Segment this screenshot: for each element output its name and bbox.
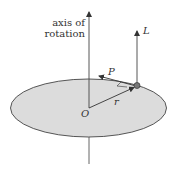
label-P: P xyxy=(107,66,115,77)
axis-label-line1: axis of xyxy=(52,17,86,28)
rotation-diagram: axis of rotation L P r O xyxy=(0,0,174,173)
particle xyxy=(134,83,140,89)
label-O: O xyxy=(81,108,89,119)
label-L: L xyxy=(142,25,150,36)
axis-label-line2: rotation xyxy=(45,28,86,39)
